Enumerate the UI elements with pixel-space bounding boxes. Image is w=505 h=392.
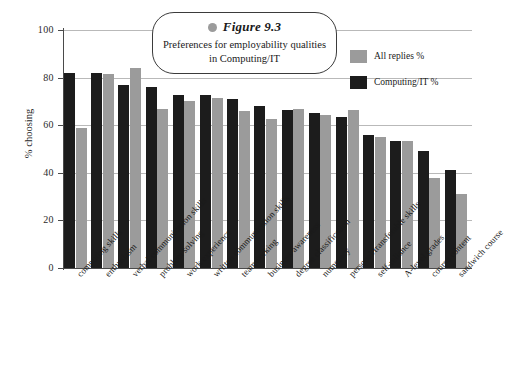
- bar-all-replies: [76, 128, 87, 268]
- bar-computing-it: [118, 85, 129, 268]
- bar-all-replies: [375, 137, 386, 268]
- bar-computing-it: [200, 95, 211, 268]
- bar-computing-it: [227, 99, 238, 268]
- bar-group: [91, 30, 118, 268]
- legend-swatch-light: [350, 50, 367, 63]
- figure-callout-box: Figure 9.3 Preferences for employability…: [152, 12, 337, 74]
- bar-all-replies: [184, 101, 195, 268]
- bar-group: [118, 30, 145, 268]
- y-axis-tick: [58, 268, 64, 269]
- y-axis-tick-label: 80: [20, 72, 54, 83]
- callout-title-row: Figure 9.3: [153, 18, 336, 36]
- bar-all-replies: [429, 178, 440, 268]
- legend-item: Computing/IT %: [350, 72, 470, 92]
- y-axis-tick-label: 20: [20, 214, 54, 225]
- bar-computing-it: [390, 141, 401, 268]
- bar-all-replies: [348, 110, 359, 268]
- bar-all-replies: [293, 109, 304, 268]
- circle-bullet-icon: [208, 23, 217, 32]
- y-axis-tick-label: 100: [20, 24, 54, 35]
- bar-computing-it: [173, 95, 184, 268]
- bar-all-replies: [103, 74, 114, 268]
- chart-legend: All replies %Computing/IT %: [350, 46, 470, 98]
- figure-caption: Preferences for employability qualities …: [153, 36, 336, 66]
- legend-swatch-dark: [350, 76, 367, 89]
- bar-computing-it: [146, 87, 157, 268]
- bar-all-replies: [239, 111, 250, 268]
- legend-item: All replies %: [350, 46, 470, 66]
- bar-computing-it: [445, 170, 456, 268]
- bar-group: [64, 30, 91, 268]
- y-axis-tick-label: 40: [20, 167, 54, 178]
- y-axis-tick-label: 0: [20, 262, 54, 273]
- bar-all-replies: [320, 115, 331, 269]
- bar-all-replies: [130, 68, 141, 268]
- bar-all-replies: [266, 119, 277, 268]
- y-axis-tick-label: 60: [20, 119, 54, 130]
- bar-computing-it: [64, 73, 75, 268]
- bar-computing-it: [309, 113, 320, 268]
- figure-label: Figure 9.3: [223, 19, 281, 35]
- bar-computing-it: [254, 106, 265, 268]
- bar-computing-it: [282, 110, 293, 268]
- bar-computing-it: [418, 151, 429, 268]
- legend-label: Computing/IT %: [374, 77, 438, 87]
- bar-all-replies: [402, 141, 413, 268]
- bar-computing-it: [363, 135, 374, 268]
- bar-all-replies: [157, 109, 168, 268]
- legend-label: All replies %: [374, 51, 424, 61]
- bar-computing-it: [336, 117, 347, 268]
- bar-computing-it: [91, 73, 102, 268]
- bar-all-replies: [212, 98, 223, 268]
- bar-all-replies: [456, 194, 467, 268]
- x-axis-line: [63, 268, 472, 269]
